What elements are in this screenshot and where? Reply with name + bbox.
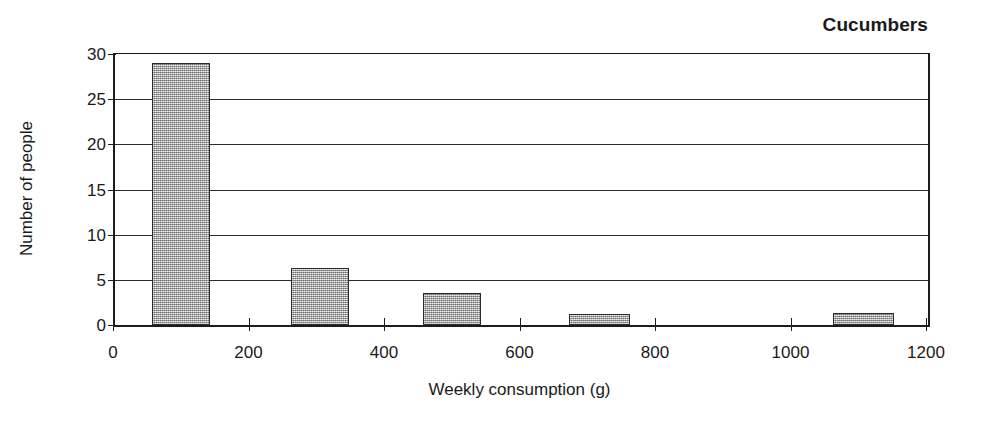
x-tick-mark xyxy=(249,318,250,331)
y-tick-label: 10 xyxy=(87,226,106,243)
bar xyxy=(152,63,210,325)
gridline xyxy=(115,99,928,100)
bar xyxy=(423,293,481,325)
gridline xyxy=(115,190,928,191)
x-tick-label: 1000 xyxy=(772,344,810,361)
x-tick-label: 400 xyxy=(370,344,398,361)
y-tick-mark xyxy=(108,99,116,100)
x-tick-mark xyxy=(655,318,656,331)
x-tick-mark xyxy=(926,318,927,331)
x-tick-mark xyxy=(384,318,385,331)
y-tick-label: 15 xyxy=(87,181,106,198)
y-tick-label: 30 xyxy=(87,46,106,63)
y-tick-label: 25 xyxy=(87,91,106,108)
y-tick-mark xyxy=(108,190,116,191)
y-tick-mark xyxy=(108,280,116,281)
x-tick-mark xyxy=(113,318,114,331)
x-tick-mark xyxy=(791,318,792,331)
x-axis-label: Weekly consumption (g) xyxy=(113,380,926,400)
x-tick-label: 0 xyxy=(108,344,117,361)
y-tick-mark xyxy=(108,235,116,236)
x-tick-mark xyxy=(520,318,521,331)
gridline xyxy=(115,144,928,145)
y-tick-mark xyxy=(108,54,116,55)
x-tick-label: 1200 xyxy=(907,344,945,361)
gridline xyxy=(115,235,928,236)
y-tick-label: 20 xyxy=(87,136,106,153)
y-axis-label: Number of people xyxy=(16,53,38,324)
bar xyxy=(291,268,349,325)
x-tick-label: 600 xyxy=(505,344,533,361)
x-tick-label: 800 xyxy=(641,344,669,361)
gridline xyxy=(115,280,928,281)
chart-title: Cucumbers xyxy=(823,14,928,36)
plot-area: 051015202530 xyxy=(113,53,930,327)
y-tick-mark xyxy=(108,144,116,145)
histogram-chart: Cucumbers Number of people 051015202530 … xyxy=(0,0,986,438)
x-tick-label: 200 xyxy=(234,344,262,361)
y-tick-label: 5 xyxy=(97,271,106,288)
x-axis-ticks-group: 020040060080010001200 xyxy=(113,324,926,325)
y-tick-mark xyxy=(108,325,116,326)
y-tick-label: 0 xyxy=(97,317,106,334)
